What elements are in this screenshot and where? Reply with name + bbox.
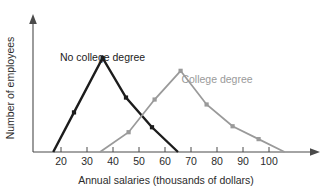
series-label-college-degree: College degree — [181, 73, 252, 85]
series-layer — [53, 56, 284, 152]
data-point-marker — [150, 125, 154, 129]
y-axis-arrow-icon — [29, 14, 37, 24]
x-axis-arrow-icon — [310, 148, 320, 156]
data-point-marker — [124, 95, 128, 99]
chart-container: 2030405060708090100 No college degreeCol… — [0, 0, 329, 193]
x-tick-label-30: 30 — [81, 155, 93, 167]
x-tick-label-20: 20 — [55, 155, 67, 167]
x-tick-label-60: 60 — [159, 155, 171, 167]
data-point-marker — [205, 102, 209, 106]
x-axis-title: Annual salaries (thousands of dollars) — [78, 174, 254, 186]
series-annotations: No college degreeCollege degree — [60, 51, 253, 85]
x-tick-label-40: 40 — [107, 155, 119, 167]
salary-distribution-chart: 2030405060708090100 No college degreeCol… — [0, 0, 329, 193]
x-tick-label-80: 80 — [211, 155, 223, 167]
x-tick-label-50: 50 — [133, 155, 145, 167]
series-no-college-degree — [53, 56, 178, 152]
series-line — [53, 58, 178, 152]
x-axis-ticks — [61, 147, 269, 152]
x-tick-label-100: 100 — [260, 155, 278, 167]
series-label-no-college-degree: No college degree — [60, 51, 145, 63]
data-point-marker — [127, 130, 131, 134]
data-point-marker — [257, 137, 261, 141]
y-axis-title: Number of employees — [4, 37, 16, 140]
data-point-marker — [153, 97, 157, 101]
x-axis-tick-labels: 2030405060708090100 — [55, 155, 278, 167]
x-tick-label-70: 70 — [185, 155, 197, 167]
data-point-marker — [72, 110, 76, 114]
y-axis — [29, 14, 37, 152]
data-point-marker — [231, 124, 235, 128]
x-tick-label-90: 90 — [237, 155, 249, 167]
